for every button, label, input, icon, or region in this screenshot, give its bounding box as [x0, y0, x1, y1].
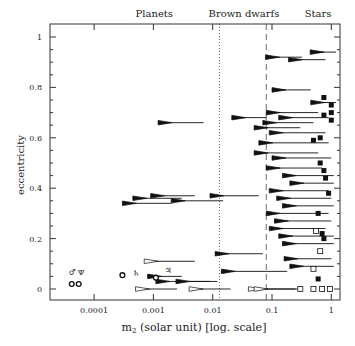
open-square-marker	[313, 229, 318, 234]
filled-square-marker	[321, 168, 326, 173]
filled-wedge-marker	[311, 100, 325, 105]
region-label-planets: Planets	[136, 8, 173, 19]
y-tick-label: 0.6	[29, 134, 42, 143]
filled-wedge-marker	[266, 110, 280, 115]
filled-square-marker	[323, 176, 328, 181]
filled-wedge-marker	[284, 256, 298, 261]
filled-wedge-marker	[151, 193, 165, 198]
filled-wedge-marker	[269, 188, 283, 193]
solar-planet-marker	[120, 273, 125, 278]
x-axis-label: m2 (solar unit) [log. scale]	[122, 321, 267, 335]
eccentricity-mass-chart: ♂Ψ♄♃ 0.00010.0010.010.1100.20.40.60.81 P…	[0, 0, 355, 346]
filled-square-marker	[311, 138, 316, 143]
neptune-symbol-icon: Ψ	[77, 268, 84, 277]
y-tick-label: 0.2	[29, 235, 42, 244]
x-tick-label: 1	[329, 306, 334, 315]
filled-wedge-marker	[266, 166, 280, 171]
filled-wedge-marker	[266, 211, 280, 216]
axis-ticks: 0.00010.0010.010.1100.20.40.60.81	[29, 24, 340, 315]
filled-wedge-marker	[279, 234, 293, 239]
filled-wedge-marker	[259, 141, 273, 146]
x-tick-label: 0.1	[266, 306, 279, 315]
filled-wedge-marker	[279, 115, 293, 120]
y-tick-label: 0.4	[29, 184, 42, 193]
filled-wedge-marker	[310, 50, 324, 55]
jupiter-symbol-icon: ♃	[164, 266, 171, 275]
y-axis-label: eccentricity	[15, 135, 26, 195]
open-wedge-marker	[144, 259, 158, 264]
y-tick-label: 1	[37, 33, 42, 42]
filled-wedge-marker	[289, 57, 303, 62]
y-tick-label: 0	[37, 285, 42, 294]
filled-wedge-marker	[122, 201, 136, 206]
boundary-lines	[219, 24, 266, 300]
filled-wedge-marker	[176, 279, 190, 284]
filled-square-marker	[320, 231, 325, 236]
solar-planet-marker	[69, 282, 74, 287]
filled-square-marker	[326, 191, 331, 196]
solar-planet-marker	[153, 275, 158, 280]
filled-wedge-marker	[282, 204, 296, 209]
open-square-marker	[298, 287, 303, 292]
filled-wedge-marker	[269, 226, 283, 231]
filled-wedge-marker	[290, 264, 304, 269]
filled-square-marker	[316, 211, 321, 216]
filled-wedge-marker	[290, 181, 304, 186]
filled-square-marker	[316, 276, 321, 281]
filled-wedge-marker	[232, 115, 246, 120]
filled-square-marker	[321, 95, 326, 100]
filled-wedge-marker	[158, 120, 172, 125]
filled-square-marker	[321, 236, 326, 241]
saturn-symbol-icon: ♄	[132, 269, 139, 278]
filled-wedge-marker	[221, 269, 235, 274]
filled-wedge-marker	[263, 120, 277, 125]
filled-wedge-marker	[282, 173, 296, 178]
open-square-marker	[311, 287, 316, 292]
region-label-stars: Stars	[305, 8, 332, 19]
filled-wedge-marker	[210, 193, 224, 198]
open-square-marker	[327, 287, 332, 292]
filled-wedge-marker	[133, 196, 147, 201]
region-label-brown-dwarfs: Brown dwarfs	[209, 8, 280, 19]
open-square-marker	[311, 266, 316, 271]
x-tick-label: 0.01	[204, 306, 222, 315]
uranus-symbol-icon: ♂	[68, 268, 75, 277]
open-wedge-marker	[136, 287, 150, 292]
filled-wedge-marker	[269, 130, 283, 135]
open-square-marker	[318, 249, 323, 254]
filled-square-marker	[329, 103, 334, 108]
filled-wedge-marker	[272, 156, 286, 161]
solar-planet-marker	[76, 282, 81, 287]
filled-wedge-marker	[266, 55, 280, 60]
filled-wedge-marker	[171, 199, 185, 204]
data-points: ♂Ψ♄♃	[68, 50, 336, 292]
filled-wedge-marker	[272, 88, 286, 93]
filled-square-marker	[318, 135, 323, 140]
filled-wedge-marker	[277, 196, 291, 201]
x-tick-label: 0.001	[142, 306, 165, 315]
filled-wedge-marker	[215, 251, 229, 256]
filled-square-marker	[321, 113, 326, 118]
filled-square-marker	[318, 161, 323, 166]
y-tick-label: 0.8	[29, 83, 42, 92]
open-wedge-marker	[189, 287, 203, 292]
filled-wedge-marker	[274, 219, 288, 224]
filled-wedge-marker	[282, 241, 296, 246]
filled-square-marker	[329, 110, 334, 115]
filled-square-marker	[329, 118, 334, 123]
open-square-marker	[320, 287, 325, 292]
x-tick-label: 0.0001	[80, 306, 108, 315]
